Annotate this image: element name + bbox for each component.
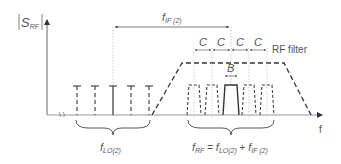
x-axis: f [47, 112, 322, 135]
lo-line [145, 86, 153, 115]
f-rf-equation: fRF = fLO(2) + fIF (2) [192, 141, 268, 155]
c-label: C [254, 36, 262, 48]
x-axis-label: f [319, 124, 322, 135]
rf-brace: fRF = fLO(2) + fIF (2) [188, 120, 274, 155]
f-lo-label: fLO(2) [100, 141, 121, 155]
b-label: B [227, 62, 234, 74]
rf-channel-selected [223, 85, 239, 115]
c-label: C [236, 36, 244, 48]
lo-line [91, 86, 99, 115]
rf-channels [187, 85, 274, 115]
c-label: C [217, 36, 225, 48]
bandwidth-marker: B [225, 62, 237, 76]
channel-spacing-markers: C C C C [195, 36, 266, 50]
lo-line-selected [109, 86, 117, 115]
frequency-spectrum-diagram: SRF f f [0, 0, 341, 164]
f-if-label: fIF (2) [162, 11, 182, 25]
rf-filter-curve: RF filter [152, 44, 311, 115]
c-label: C [199, 36, 207, 48]
y-axis-label: SRF [21, 15, 40, 30]
lo-line [127, 86, 135, 115]
lo-spectral-lines [73, 86, 153, 115]
lo-line [73, 86, 81, 115]
lo-brace: fLO(2) [76, 120, 150, 155]
rf-filter-label: RF filter [272, 44, 308, 55]
f-if-dimension: fIF (2) [113, 11, 231, 86]
y-axis: SRF [19, 14, 47, 115]
